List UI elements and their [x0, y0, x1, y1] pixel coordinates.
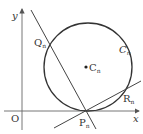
- center-point: [84, 65, 87, 68]
- circle-Cn: [44, 23, 132, 111]
- diagram: y x O Cn Cn Qn Pn Rn: [0, 0, 143, 134]
- origin-label: O: [11, 113, 19, 124]
- diagram-svg: y x O Cn Cn Qn Pn Rn: [0, 0, 143, 134]
- center-label: Cn: [89, 62, 101, 74]
- axis-y-label: y: [11, 10, 18, 21]
- point-P-label: Pn: [79, 117, 90, 129]
- circle-label: Cn: [119, 44, 131, 56]
- axis-x-label: x: [133, 113, 139, 124]
- point-Q-label: Qn: [34, 37, 46, 49]
- point-R-label: Rn: [123, 93, 135, 105]
- line-PR: [54, 81, 141, 128]
